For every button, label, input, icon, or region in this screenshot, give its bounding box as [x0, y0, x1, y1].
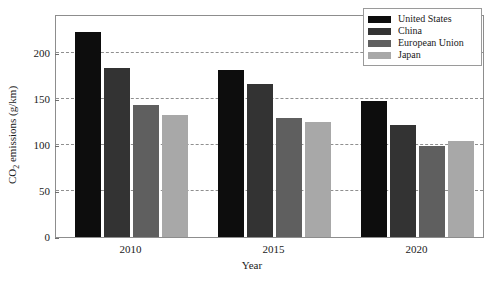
y-tick-mark	[55, 54, 59, 55]
bar	[133, 105, 159, 237]
bar-chart-figure: CO2 emissions (g/km) 050100150200 201020…	[0, 0, 504, 281]
legend-swatch-icon	[368, 40, 391, 47]
y-tick-label: 50	[24, 185, 50, 197]
y-axis-label-prefix: CO	[6, 169, 18, 184]
legend-label: Japan	[398, 49, 421, 61]
bar	[247, 84, 273, 237]
y-tick-label: 100	[24, 139, 50, 151]
bar	[305, 122, 331, 237]
legend-swatch-icon	[368, 16, 391, 23]
legend-swatch-icon	[368, 28, 391, 35]
bar	[162, 115, 188, 237]
y-tick-label: 150	[24, 93, 50, 105]
legend: United StatesChinaEuropean UnionJapan	[363, 8, 482, 66]
legend-swatch-icon	[368, 52, 391, 59]
x-axis-label: Year	[0, 259, 504, 271]
legend-item[interactable]: Japan	[368, 49, 476, 61]
y-tick-mark	[55, 238, 59, 239]
y-tick-mark	[55, 192, 59, 193]
bar	[218, 70, 244, 237]
y-axis-label-suffix: emissions (g/km)	[6, 86, 18, 165]
y-axis-label-subscript: 2	[12, 165, 21, 169]
bar	[276, 118, 302, 237]
bar	[448, 141, 474, 237]
x-tick-label: 2020	[372, 243, 462, 255]
y-tick-label: 0	[24, 231, 50, 243]
bar	[419, 146, 445, 237]
y-tick-label: 200	[24, 47, 50, 59]
x-tick-label: 2015	[229, 243, 319, 255]
y-tick-mark	[55, 100, 59, 101]
y-tick-label-group: 050100150200	[22, 15, 50, 238]
bar	[75, 32, 101, 237]
bar	[390, 125, 416, 237]
legend-item[interactable]: European Union	[368, 37, 476, 49]
legend-item[interactable]: China	[368, 25, 476, 37]
y-tick-mark	[55, 146, 59, 147]
x-tick-label: 2010	[86, 243, 176, 255]
legend-label: China	[398, 25, 422, 37]
bar	[104, 68, 130, 237]
legend-label: European Union	[398, 37, 464, 49]
bar	[361, 101, 387, 237]
legend-item[interactable]: United States	[368, 13, 476, 25]
legend-label: United States	[398, 13, 452, 25]
